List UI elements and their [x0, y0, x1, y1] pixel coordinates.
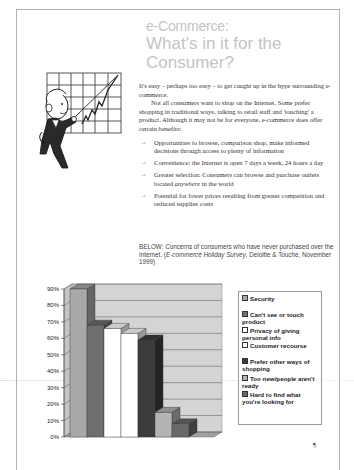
list-item: → Greater selection: Consumers can brows… [139, 171, 335, 188]
list-item: → Opportunities to browse, comparison sh… [139, 139, 335, 156]
concerns-bar-chart: 0%10%20%30%40%50%60%70%80%90% [30, 276, 230, 446]
emphasis-anywhere: anywhere [175, 180, 200, 187]
list-item: → Potential for lower prices resulting f… [139, 192, 335, 209]
chart-bar [172, 419, 197, 437]
legend-label: Can't see or touch product [242, 311, 304, 325]
arrow-bullet-icon: → [141, 139, 146, 148]
chart-caption: BELOW: Concerns of consumers who have ne… [139, 243, 335, 266]
legend-swatch-icon [242, 391, 248, 397]
survey-title: E-commerce Holiday Survey [166, 251, 246, 258]
arrow-bullet-icon: → [141, 192, 146, 201]
pilcrow-mark: ¶ [313, 441, 316, 449]
title-line-3: Consumer? [146, 53, 282, 72]
y-axis-tick-label: 30% [47, 385, 60, 391]
intro-paragraph-1: It's easy – perhaps too easy – to get ca… [139, 82, 335, 99]
legend-swatch-icon [242, 342, 248, 348]
y-axis-tick-label: 80% [47, 302, 60, 308]
legend-item: Can't see or touch product [242, 311, 320, 326]
y-axis-tick-label: 70% [47, 319, 60, 325]
legend-label: Security [250, 295, 274, 302]
y-axis-tick-label: 90% [47, 286, 60, 292]
legend-swatch-icon [242, 358, 248, 364]
legend-swatch-icon [242, 295, 248, 301]
arrow-bullet-icon: → [141, 171, 146, 180]
businessman-pointing-chart-icon [20, 72, 128, 172]
legend-item: Prefer other ways of shopping [242, 358, 320, 373]
title-line-2: What's in it for the [146, 34, 282, 53]
chart-legend: SecurityCan't see or touch productPrivac… [238, 291, 322, 425]
title-line-1: e-Commerce: [146, 18, 282, 34]
legend-label: Privacy of giving personal info [242, 327, 300, 341]
legend-item: Security [242, 295, 320, 302]
legend-swatch-icon [242, 311, 248, 317]
benefits-list: → Opportunities to browse, comparison sh… [139, 139, 335, 209]
list-item: → Convenience: the Internet is open 7 da… [139, 159, 335, 168]
legend-label: Customer recourse [250, 342, 307, 349]
legend-item: Hard to find what you're looking for [242, 391, 320, 406]
y-axis-tick-label: 40% [47, 368, 60, 374]
arrow-bullet-icon: → [141, 159, 146, 168]
y-axis-tick-label: 50% [47, 352, 60, 358]
legend-swatch-icon [242, 327, 248, 333]
intro-paragraph-2: Not all consumers want to shop on the In… [139, 99, 335, 133]
legend-label: Hard to find what you're looking for [242, 391, 301, 405]
legend-item: Privacy of giving personal info [242, 327, 320, 342]
y-axis-tick-label: 20% [47, 401, 60, 407]
legend-item: Customer recourse [242, 342, 320, 349]
legend-label: Too new/people aren't ready [242, 375, 315, 389]
page-title: e-Commerce: What's in it for the Consume… [146, 18, 282, 72]
y-axis-tick-label: 0% [50, 434, 59, 440]
intro-text: It's easy – perhaps too easy – to get ca… [139, 82, 335, 212]
y-axis-tick-label: 10% [47, 418, 60, 424]
legend-item: Too new/people aren't ready [242, 375, 320, 390]
legend-swatch-icon [242, 375, 248, 381]
legend-label: Prefer other ways of shopping [242, 358, 310, 372]
y-axis-tick-label: 60% [47, 335, 60, 341]
